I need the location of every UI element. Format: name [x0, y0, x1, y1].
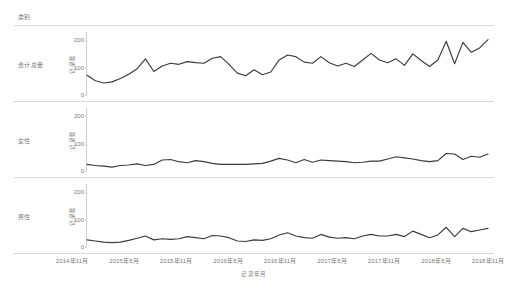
x-tick-label: 2015年11月 [160, 256, 192, 265]
y-tick-label: 100 [74, 216, 84, 223]
x-tick-container: 2014年11月2015年5月2015年11月2016年5月2016年11月20… [72, 254, 488, 268]
plot-area-2: 200 100 0 [86, 184, 488, 247]
chart-container: 类别 合计总量 记录数 200 100 0 女性 记录数 200 100 0 [0, 0, 508, 294]
series-svg-1 [87, 108, 488, 171]
series-line-0 [87, 40, 488, 83]
facet-panel-1: 女性 记录数 200 100 0 [14, 102, 494, 178]
x-axis-title: 记录年月 [0, 270, 508, 278]
y-tick-mark [85, 247, 87, 248]
facet-panel-0: 合计总量 记录数 200 100 0 [14, 26, 494, 102]
facet-header-strip: 类别 [14, 12, 494, 26]
series-line-1 [87, 153, 488, 167]
x-tick-label: 2018年5月 [421, 256, 450, 265]
y-tick-mark [85, 171, 87, 172]
x-axis: 2014年11月2015年5月2015年11月2016年5月2016年11月20… [14, 254, 494, 268]
x-tick-label: 2016年5月 [213, 256, 242, 265]
x-tick-label: 2018年11月 [472, 256, 504, 265]
x-tick-label: 2014年11月 [56, 256, 88, 265]
facet-panel-label-1: 女性 [18, 135, 31, 144]
y-tick-label: 100 [74, 64, 84, 71]
x-tick-label: 2015年5月 [109, 256, 138, 265]
plot-area-0: 200 100 0 [86, 32, 488, 95]
y-tick-label: 0 [81, 244, 84, 251]
series-svg-0 [87, 32, 488, 95]
facet-header-label: 类别 [18, 12, 31, 23]
x-tick-label: 2017年11月 [368, 256, 400, 265]
y-tick-label: 0 [81, 168, 84, 175]
y-tick-label: 200 [74, 113, 84, 120]
y-tick-label: 200 [74, 37, 84, 44]
y-tick-label: 200 [74, 189, 84, 196]
series-svg-2 [87, 184, 488, 247]
y-tick-mark [85, 95, 87, 96]
x-tick-label: 2016年11月 [264, 256, 296, 265]
y-tick-label: 0 [81, 92, 84, 99]
y-tick-label: 100 [74, 140, 84, 147]
plot-area-1: 200 100 0 [86, 108, 488, 171]
facet-panel-label-0: 合计总量 [18, 59, 43, 68]
facet-panel-2: 男性 记录数 200 100 0 [14, 178, 494, 254]
x-tick-label: 2017年5月 [317, 256, 346, 265]
series-line-2 [87, 227, 488, 242]
facet-panel-label-2: 男性 [18, 211, 31, 220]
